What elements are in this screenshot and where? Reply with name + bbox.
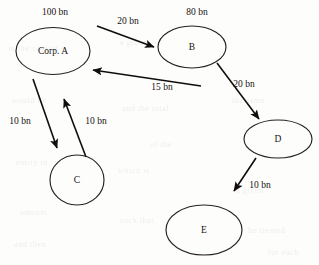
node-label-b: B — [189, 42, 195, 52]
edge-arrow-b-to-a — [93, 70, 201, 86]
edge-arrow-b-to-d — [217, 63, 259, 119]
node-label-c: C — [74, 175, 80, 185]
edge-label-a-to-b: 20 bn — [117, 16, 139, 26]
node-label-d: D — [275, 134, 282, 144]
edge-label-d-to-e: 10 bn — [249, 180, 271, 190]
diagram-canvas: in the case ofa groupthe samewould beand… — [0, 0, 319, 265]
node-value-b: 80 bn — [186, 7, 208, 17]
edge-label-b-to-a: 15 bn — [151, 82, 173, 92]
edge-label-b-to-d: 20 bn — [233, 79, 255, 89]
node-label-e: E — [201, 225, 207, 235]
edge-arrow-a-to-c — [33, 79, 57, 148]
edge-arrow-a-to-b — [97, 26, 154, 47]
flow-diagram: Corp. ABCDE 20 bn15 bn10 bn10 bn20 bn10 … — [0, 0, 319, 265]
nodes-layer: Corp. ABCDE — [16, 26, 312, 255]
edge-arrow-c-to-a — [64, 99, 86, 157]
edge-label-c-to-a: 10 bn — [85, 116, 107, 126]
node-label-a: Corp. A — [38, 46, 68, 56]
node-value-a: 100 bn — [42, 7, 68, 17]
edge-label-a-to-c: 10 bn — [9, 116, 31, 126]
edge-labels-layer: 20 bn15 bn10 bn10 bn20 bn10 bn100 bn80 b… — [9, 7, 271, 190]
